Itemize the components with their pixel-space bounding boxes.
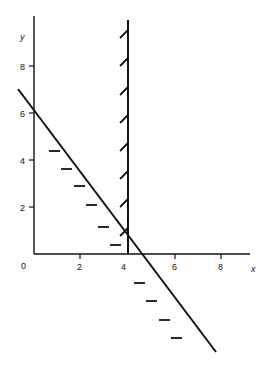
y-tick-label-6: 6 <box>20 109 25 119</box>
inequality-diagram: y x 0 8 6 4 2 2 4 6 8 <box>0 0 270 378</box>
x-tick-label-8: 8 <box>218 262 223 272</box>
y-tick-label-8: 8 <box>20 62 25 72</box>
y-tick-label-4: 4 <box>20 156 25 166</box>
y-tick-label-2: 2 <box>20 203 25 213</box>
x-ticks <box>80 254 221 259</box>
x-tick-label-6: 6 <box>172 262 177 272</box>
x-tick-label-4: 4 <box>121 262 126 272</box>
diagonal-boundary-line <box>18 89 216 352</box>
x-axis-label: x <box>250 264 256 274</box>
diagonal-boundary-hatching <box>49 151 182 338</box>
y-axis-label: y <box>19 32 25 42</box>
vertical-boundary-hatching <box>120 30 128 236</box>
origin-label: 0 <box>21 261 26 271</box>
x-tick-label-2: 2 <box>77 262 82 272</box>
y-ticks <box>29 66 34 207</box>
